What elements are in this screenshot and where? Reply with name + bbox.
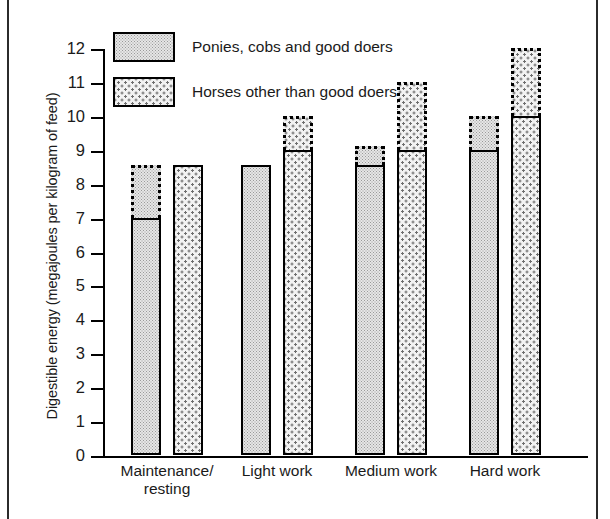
bar-ponies bbox=[241, 165, 271, 455]
bar-range-extension bbox=[131, 165, 161, 218]
y-axis-tick-label: 3 bbox=[45, 345, 85, 362]
x-axis-label-line1: Light work bbox=[242, 462, 313, 479]
y-axis-tick bbox=[91, 49, 103, 51]
bar-horses bbox=[511, 48, 541, 455]
y-axis-tick-label: 5 bbox=[45, 277, 85, 294]
bar-solid-value bbox=[131, 218, 161, 455]
bar-ponies bbox=[469, 116, 499, 455]
bar-solid-value bbox=[397, 150, 427, 455]
y-axis-tick-label: 9 bbox=[45, 142, 85, 159]
y-axis-tick bbox=[91, 151, 103, 153]
x-axis-label-line1: Hard work bbox=[470, 462, 541, 479]
y-axis-tick-label: 2 bbox=[45, 379, 85, 396]
y-axis-tick-label: 12 bbox=[45, 40, 85, 57]
y-axis-tick-label: 0 bbox=[45, 447, 85, 464]
y-axis-tick bbox=[91, 456, 103, 458]
y-axis-tick bbox=[91, 422, 103, 424]
x-axis-label-4: Hard work bbox=[425, 462, 585, 480]
fine-stipple-swatch bbox=[113, 32, 175, 62]
bar-range-extension bbox=[397, 82, 427, 150]
bar-horses bbox=[173, 165, 203, 455]
y-axis-tick bbox=[91, 83, 103, 85]
bar-range-extension bbox=[469, 116, 499, 150]
bar-solid-value bbox=[355, 165, 385, 455]
coarse-dot-swatch bbox=[113, 77, 175, 107]
bar-solid-value bbox=[241, 165, 271, 455]
bar-solid-value bbox=[511, 116, 541, 455]
bar-horses bbox=[283, 116, 313, 455]
legend-item-label: Horses other than good doers bbox=[192, 83, 397, 101]
bar-chart-figure: Digestible energy (megajoules per kilogr… bbox=[0, 0, 610, 519]
y-axis-tick bbox=[91, 388, 103, 390]
bar-ponies bbox=[355, 146, 385, 455]
bar-range-extension bbox=[511, 48, 541, 116]
y-axis-tick bbox=[91, 354, 103, 356]
y-axis-tick-label: 7 bbox=[45, 210, 85, 227]
plot-area: 0123456789101112 bbox=[103, 49, 588, 457]
x-axis-label-line2: resting bbox=[87, 480, 247, 498]
bar-horses bbox=[397, 82, 427, 455]
y-axis-tick bbox=[91, 117, 103, 119]
bar-range-extension bbox=[355, 146, 385, 165]
y-axis-tick bbox=[91, 253, 103, 255]
y-axis-tick-label: 6 bbox=[45, 244, 85, 261]
y-axis-tick bbox=[91, 320, 103, 322]
y-axis-tick-label: 8 bbox=[45, 176, 85, 193]
y-axis-tick bbox=[91, 185, 103, 187]
y-axis-line bbox=[103, 49, 105, 458]
bar-ponies bbox=[131, 165, 161, 455]
x-axis-line bbox=[103, 456, 588, 458]
y-axis-tick-label: 1 bbox=[45, 413, 85, 430]
x-axis-label-line1: Medium work bbox=[345, 462, 437, 479]
bar-solid-value bbox=[469, 150, 499, 455]
legend-item-2: Horses other than good doers bbox=[113, 77, 397, 107]
bar-solid-value bbox=[283, 150, 313, 455]
legend-item-1: Ponies, cobs and good doers bbox=[113, 32, 393, 62]
y-axis-tick-label: 4 bbox=[45, 311, 85, 328]
y-axis-tick-label: 11 bbox=[45, 74, 85, 91]
y-axis-tick bbox=[91, 286, 103, 288]
y-axis-tick bbox=[91, 219, 103, 221]
bar-solid-value bbox=[173, 165, 203, 455]
legend-item-label: Ponies, cobs and good doers bbox=[192, 38, 393, 56]
bar-range-extension bbox=[283, 116, 313, 150]
y-axis-tick-label: 10 bbox=[45, 108, 85, 125]
